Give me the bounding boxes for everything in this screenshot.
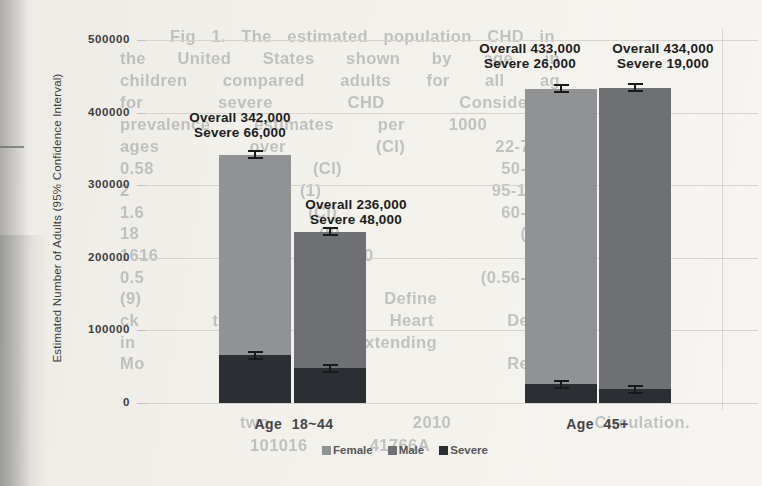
tick-mark bbox=[137, 185, 146, 186]
chart-legend: Female Male Severe bbox=[322, 444, 488, 456]
scan-crease-line bbox=[722, 28, 723, 410]
ci-error-bar-severe-age-45-male bbox=[628, 385, 643, 394]
y-tick-label: 200000 bbox=[58, 251, 130, 263]
annotation-overall: Overall 342,000 bbox=[150, 110, 330, 125]
legend-swatch-female-icon bbox=[322, 446, 331, 455]
bar-age-45-female bbox=[525, 89, 597, 403]
annotation-overall: Overall 434,000 bbox=[573, 41, 753, 56]
annotation-age-18-44-male: Overall 236,000 Severe 48,000 bbox=[266, 197, 446, 227]
y-tick-label: 0 bbox=[58, 396, 130, 408]
legend-label-severe: Severe bbox=[450, 444, 488, 456]
annotation-severe: Severe 19,000 bbox=[573, 56, 753, 71]
y-tick-label: 400000 bbox=[58, 106, 130, 118]
annotation-age-18-44-female: Overall 342,000 Severe 66,000 bbox=[150, 110, 330, 140]
y-tick-label: 300000 bbox=[58, 178, 130, 190]
annotation-overall: Overall 236,000 bbox=[266, 197, 446, 212]
scanned-figure-page: Fig 1. The estimated population CHD inth… bbox=[0, 0, 762, 486]
ci-error-bar-severe-age-45-female bbox=[554, 380, 569, 389]
ci-error-bar-overall-age-45-male bbox=[628, 83, 643, 92]
annotation-severe: Severe 48,000 bbox=[266, 212, 446, 227]
y-tick-label: 500000 bbox=[58, 33, 130, 45]
tick-mark bbox=[137, 258, 146, 259]
tick-mark bbox=[137, 40, 146, 41]
legend-swatch-male-icon bbox=[388, 446, 397, 455]
bar-age-18-44-male bbox=[294, 232, 366, 403]
x-axis-label-age-45plus: Age 45+ bbox=[525, 416, 670, 432]
legend-swatch-severe-icon bbox=[439, 446, 448, 455]
annotation-age-45plus-male: Overall 434,000 Severe 19,000 bbox=[573, 41, 753, 71]
legend-item-female: Female bbox=[322, 444, 373, 456]
bar-severe-segment-age-18-44-male bbox=[294, 368, 366, 403]
ci-error-bar-overall-age-18-44-male bbox=[323, 227, 338, 236]
tick-mark bbox=[137, 113, 146, 114]
bar-age-45-male bbox=[599, 88, 671, 403]
ci-error-bar-overall-age-18-44-female bbox=[248, 150, 263, 159]
bar-age-18-44-female bbox=[219, 155, 291, 403]
y-axis-title: Estimated Number of Adults (95% Confiden… bbox=[51, 73, 63, 362]
gridline bbox=[137, 403, 758, 404]
ci-error-bar-severe-age-18-44-female bbox=[248, 351, 263, 360]
stacked-bar-chart: 5000004000003000002000001000000 Estimate… bbox=[0, 0, 762, 486]
y-tick-label: 100000 bbox=[58, 323, 130, 335]
ci-error-bar-overall-age-45-female bbox=[554, 84, 569, 93]
legend-item-severe: Severe bbox=[439, 444, 488, 456]
legend-label-male: Male bbox=[399, 444, 425, 456]
x-axis-label-age-18-44: Age 18~44 bbox=[219, 416, 369, 432]
tick-mark bbox=[137, 403, 146, 404]
scan-artifact-line bbox=[0, 146, 24, 148]
legend-label-female: Female bbox=[333, 444, 373, 456]
annotation-severe: Severe 66,000 bbox=[150, 125, 330, 140]
ci-error-bar-severe-age-18-44-male bbox=[323, 364, 338, 373]
legend-item-male: Male bbox=[388, 444, 425, 456]
bar-severe-segment-age-18-44-female bbox=[219, 355, 291, 403]
tick-mark bbox=[137, 330, 146, 331]
